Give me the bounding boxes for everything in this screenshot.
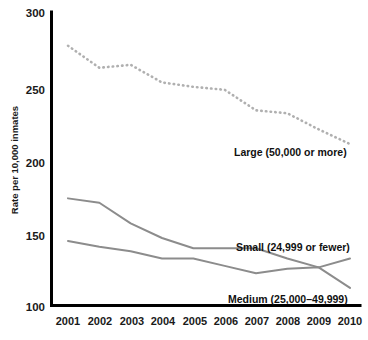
- y-axis-tick-200: 200: [26, 157, 45, 169]
- x-axis-tick-2008: 2008: [276, 315, 300, 327]
- x-axis-tick-2002: 2002: [88, 315, 112, 327]
- series-label-medium: Medium (25,000–49,999): [228, 293, 348, 305]
- line-chart: 300 250 200 150 100 Rate per 10,000 inma…: [0, 0, 368, 340]
- x-axis-tick-2005: 2005: [183, 315, 207, 327]
- series-line-large: [68, 46, 350, 144]
- y-axis-title: Rate per 10,000 inmates: [9, 106, 20, 214]
- x-axis-tick-2001: 2001: [56, 315, 80, 327]
- series-label-small: Small (24,999 or fewer): [236, 241, 350, 253]
- x-axis-tick-2003: 2003: [120, 315, 144, 327]
- x-axis-tick-2010: 2010: [338, 315, 362, 327]
- x-axis-tick-2009: 2009: [307, 315, 331, 327]
- x-axis-tick-2006: 2006: [214, 315, 238, 327]
- y-axis-tick-150: 150: [26, 230, 45, 242]
- x-axis-tick-2004: 2004: [151, 315, 176, 327]
- y-axis-tick-100: 100: [26, 301, 45, 313]
- series-label-large: Large (50,000 or more): [234, 146, 347, 158]
- y-axis-tick-300: 300: [26, 7, 45, 19]
- y-axis-tick-250: 250: [26, 84, 45, 96]
- series-line-small: [68, 198, 350, 267]
- x-axis-tick-2007: 2007: [245, 315, 269, 327]
- chart-canvas: 300 250 200 150 100 Rate per 10,000 inma…: [0, 0, 368, 340]
